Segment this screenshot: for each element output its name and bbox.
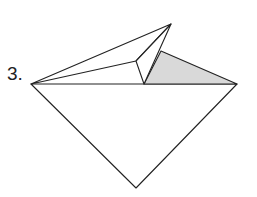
- origami-diagram: [0, 0, 257, 197]
- shaded-flap: [144, 51, 237, 84]
- paper-body: [31, 84, 237, 188]
